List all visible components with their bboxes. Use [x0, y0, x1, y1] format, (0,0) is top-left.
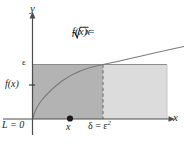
- epsilon-band-right-region: [103, 65, 167, 120]
- epsilon-label: ε: [22, 58, 26, 67]
- x-point-label: x: [66, 122, 70, 132]
- radicand: x: [85, 25, 90, 37]
- delta-band-region: [33, 65, 104, 120]
- limit-epsilon-delta-figure: y ε f(x) x L = 0 x δ = ε2 f(x)= x: [0, 0, 184, 146]
- f-of-x-label: f(x): [5, 79, 19, 89]
- delta-label-exponent: 2: [108, 119, 111, 126]
- limit-value-label: L = 0: [2, 120, 24, 130]
- delta-label: δ = ε2: [88, 120, 111, 131]
- x-axis-label: x: [173, 112, 178, 123]
- delta-label-text: δ = ε: [88, 120, 108, 131]
- y-axis-label: y: [30, 3, 35, 14]
- function-label: f(x)= x: [72, 26, 100, 37]
